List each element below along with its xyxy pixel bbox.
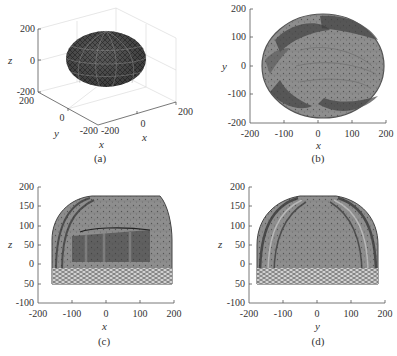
panel-c-x-label: x	[101, 320, 107, 332]
panel-a: 200 0 -200 z 200 0 -200 y -200 0 200 x x…	[7, 8, 193, 165]
panel-c-x-tick: 100	[133, 308, 148, 319]
panel-b: 200 100 0 -100 -200 y -200 -100 0 100 20…	[221, 3, 394, 165]
panel-a-z-label: z	[7, 54, 13, 66]
panel-d-dome	[257, 196, 378, 284]
panel-c-z-tick: 0	[29, 258, 34, 269]
panel-b-y-label: y	[221, 60, 227, 72]
panel-c-x-tick: 0	[104, 308, 109, 319]
panel-d-z-tick: 0	[240, 258, 245, 269]
panel-b-x-tick: 0	[316, 128, 321, 139]
panel-b-y-tick: 200	[231, 3, 246, 14]
panel-c-z-tick: 50	[24, 239, 34, 250]
panel-a-x-label: x	[141, 131, 147, 143]
panel-c-caption: (c)	[98, 335, 111, 348]
panel-a-x-tick: 0	[141, 118, 146, 129]
panel-b-y-tick: -200	[228, 117, 246, 128]
panel-b-caption: (b)	[312, 152, 325, 165]
panel-c-x-tick: -100	[63, 308, 81, 319]
panel-d-z-tick: 50	[235, 278, 245, 289]
panel-a-caption: (a)	[94, 152, 107, 165]
panel-b-x-tick: 200	[379, 128, 394, 139]
panel-d-z-tick: 200	[230, 181, 245, 192]
panel-a-ellipsoid-surface	[66, 31, 146, 87]
panel-a-y-tick: 0	[60, 112, 65, 123]
panel-a-y-tick: -200	[80, 125, 98, 136]
panel-d: 200 150 100 50 0 50 -100 z -200 -100 0 1…	[217, 181, 393, 348]
panel-b-x-tick: -100	[275, 128, 293, 139]
panel-d-x-tick: -100	[274, 308, 292, 319]
panel-d-z-tick: 100	[230, 220, 245, 231]
panel-d-x-tick: 100	[344, 308, 359, 319]
panel-c-dome	[52, 196, 172, 284]
panel-d-z-label: z	[217, 238, 223, 250]
panel-a-x-tick: 200	[178, 106, 193, 117]
panel-c-z-tick: 100	[19, 220, 34, 231]
panel-d-x-tick: -200	[240, 308, 258, 319]
panel-c-z-tick: 200	[19, 181, 34, 192]
panel-b-x-label: x	[315, 139, 321, 151]
panel-b-y-tick: 100	[231, 31, 246, 42]
panel-a-z-tick: 0	[30, 55, 35, 66]
panel-b-x-tick: 100	[345, 128, 360, 139]
panel-a-y-label: y	[53, 127, 59, 139]
panel-d-x-label: y	[314, 320, 320, 332]
panel-c-z-tick: 50	[24, 278, 34, 289]
panel-a-z-tick: 200	[20, 23, 35, 34]
panel-a-x-label-2: x	[98, 138, 104, 150]
panel-d-x-tick: 0	[315, 308, 320, 319]
panel-b-y-tick: -100	[228, 88, 246, 99]
panel-c-z-label: z	[7, 238, 13, 250]
panel-d-z-tick: -100	[227, 297, 245, 308]
panel-d-caption: (d)	[312, 335, 325, 348]
panel-d-z-tick: 50	[235, 239, 245, 250]
panel-b-disk	[262, 14, 384, 118]
panel-b-y-tick: 0	[241, 60, 246, 71]
panel-c-z-tick: -100	[16, 297, 34, 308]
panel-c-x-tick: 200	[167, 308, 182, 319]
panel-a-y-tick: 200	[19, 95, 34, 106]
panel-b-x-tick: -200	[241, 128, 259, 139]
panel-d-x-tick: 200	[378, 308, 393, 319]
panel-a-x-tick: -200	[101, 125, 119, 136]
figure: 200 0 -200 z 200 0 -200 y -200 0 200 x x…	[0, 0, 397, 356]
panel-c: 200 150 100 50 0 50 -100 z -200 -100 0 1…	[7, 181, 182, 348]
panel-c-z-tick: 150	[19, 200, 34, 211]
panel-d-z-tick: 150	[230, 200, 245, 211]
panel-c-x-tick: -200	[29, 308, 47, 319]
